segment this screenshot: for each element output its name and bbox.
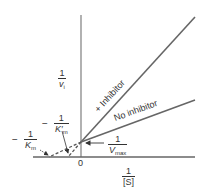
km-arrow	[40, 150, 48, 155]
km-prime-numerator: 1	[54, 113, 69, 123]
no-inhibitor-extrapolation	[49, 142, 81, 157]
km-numerator: 1	[24, 129, 37, 139]
y-label-numerator: 1	[58, 68, 66, 78]
vmax-subscript: max	[115, 150, 126, 156]
vmax-numerator: 1	[108, 134, 127, 144]
y-axis-label: 1 vi	[58, 68, 66, 92]
km-label: 1 Km	[24, 129, 37, 153]
km-prime-denominator: K′m	[54, 123, 69, 137]
x-label-denominator: [S]	[122, 176, 135, 187]
plus-inhibitor-extrapolation	[68, 142, 81, 157]
km-minus-sign: −	[12, 134, 18, 145]
y-label-subscript: i	[64, 84, 65, 90]
km-subscript: m	[31, 145, 36, 151]
km-prime-minus-sign: −	[42, 118, 48, 129]
origin-label: 0	[78, 158, 83, 168]
km-prime-subscript: m	[63, 129, 68, 135]
vmax-label: 1 Vmax	[108, 134, 127, 158]
plus-inhibitor-line	[81, 17, 195, 142]
vmax-denominator: Vmax	[108, 144, 127, 158]
x-axis-label: 1 [S]	[122, 166, 135, 187]
km-prime-k: K′	[55, 124, 63, 134]
x-label-numerator: 1	[122, 166, 135, 176]
y-label-denominator: vi	[58, 78, 66, 92]
km-prime-label: 1 K′m	[54, 113, 69, 137]
km-denominator: Km	[24, 139, 37, 153]
